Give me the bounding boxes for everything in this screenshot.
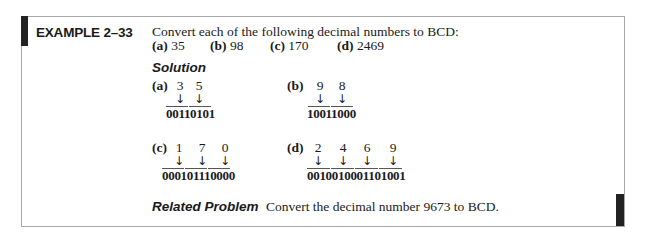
part-a: (a) 35 bbox=[152, 38, 185, 54]
solution-b-label: (b) bbox=[287, 78, 304, 94]
part-b-value: 98 bbox=[230, 38, 244, 53]
part-d-label: (d) bbox=[337, 38, 354, 53]
arrow-down-icon: ↓ bbox=[313, 92, 327, 106]
part-b: (b) 98 bbox=[210, 38, 243, 54]
related-problem-text: Convert the decimal number 9673 to BCD. bbox=[266, 199, 499, 215]
solution-c-bcd: 000101110000 bbox=[162, 168, 235, 184]
related-problem-label: Related Problem bbox=[152, 199, 259, 214]
arrow-down-icon: ↓ bbox=[386, 154, 400, 168]
arrow-down-icon: ↓ bbox=[360, 154, 374, 168]
solution-d-label: (d) bbox=[287, 140, 304, 156]
arrow-down-icon: ↓ bbox=[218, 154, 232, 168]
arrow-down-icon: ↓ bbox=[172, 154, 186, 168]
part-a-label: (a) bbox=[152, 38, 168, 53]
part-c: (c) 170 bbox=[270, 38, 309, 54]
arrow-down-icon: ↓ bbox=[195, 154, 209, 168]
part-d: (d) 2469 bbox=[337, 38, 384, 54]
solution-b-bcd: 10011000 bbox=[307, 106, 356, 122]
part-b-label: (b) bbox=[210, 38, 227, 53]
example-label: EXAMPLE 2–33 bbox=[36, 25, 133, 40]
top-left-accent-bar bbox=[21, 16, 28, 46]
part-c-label: (c) bbox=[270, 38, 285, 53]
arrow-down-icon: ↓ bbox=[311, 154, 325, 168]
solution-a-label: (a) bbox=[152, 78, 168, 94]
arrow-down-icon: ↓ bbox=[192, 92, 206, 106]
part-a-value: 35 bbox=[171, 38, 185, 53]
bottom-right-accent-bar bbox=[616, 194, 624, 226]
part-d-value: 2469 bbox=[357, 38, 384, 53]
solution-heading: Solution bbox=[152, 60, 206, 75]
arrow-down-icon: ↓ bbox=[173, 92, 187, 106]
arrow-down-icon: ↓ bbox=[335, 92, 349, 106]
arrow-down-icon: ↓ bbox=[336, 154, 350, 168]
solution-c-label: (c) bbox=[152, 140, 167, 156]
solution-a-bcd: 00110101 bbox=[166, 106, 215, 122]
solution-d-bcd: 0010010001101001 bbox=[307, 168, 405, 184]
part-c-value: 170 bbox=[288, 38, 308, 53]
